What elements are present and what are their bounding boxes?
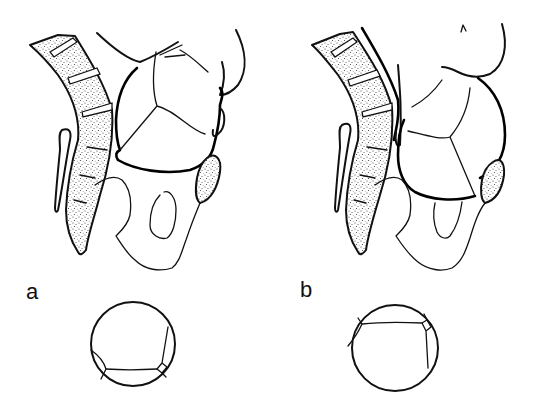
medical-figure: a b [0, 0, 540, 414]
panel-b-sacrum [312, 32, 392, 254]
panel-a-pubic-symphysis [196, 156, 220, 203]
panel-a-suture-view [91, 302, 175, 386]
panel-b-pubic-symphysis [481, 160, 504, 203]
panel-a-obturator-foramen [150, 192, 176, 239]
panel-b-suture-view [348, 305, 438, 391]
panel-a-fontanelle-right [157, 327, 168, 373]
panel-a-pelvic-bone [95, 178, 200, 270]
panel-label-a: a [26, 281, 38, 303]
figure-canvas [0, 0, 540, 414]
panel-a-sagittal-suture [106, 369, 157, 370]
panel-a-abdomen-contour [220, 30, 245, 95]
panel-a-uterus-contour [97, 33, 178, 62]
panel-b-pelvis [312, 24, 505, 270]
panel-label-b: b [300, 279, 312, 301]
panel-a-fetal-head [116, 68, 222, 172]
panel-b-pelvic-bone [375, 178, 485, 270]
panel-b-obturator-foramen [434, 202, 462, 238]
panel-a-pelvis [30, 30, 245, 270]
panel-b-sagittal-suture [362, 322, 422, 324]
panel-b-mark [461, 25, 466, 32]
panel-a-sacrum [30, 35, 112, 254]
panel-b-skull-suture [408, 80, 475, 196]
panel-b-abdomen-contour [442, 24, 505, 77]
panel-b-fontanelle-right [422, 320, 431, 368]
panel-b-skull-circle [352, 305, 438, 391]
panel-a-skull-suture [120, 50, 208, 150]
